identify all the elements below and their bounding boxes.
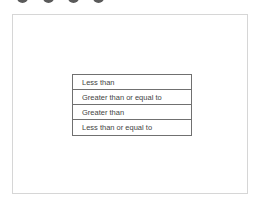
indicator-dot-1 <box>17 0 28 3</box>
indicator-dot-3 <box>68 0 79 3</box>
option-less-than[interactable]: Less than <box>73 75 191 90</box>
comparison-options-list: Less than Greater than or equal to Great… <box>72 74 192 136</box>
indicator-dot-2 <box>43 0 54 3</box>
option-greater-than-or-equal[interactable]: Greater than or equal to <box>73 90 191 105</box>
option-greater-than[interactable]: Greater than <box>73 105 191 120</box>
indicator-dot-4 <box>93 0 104 3</box>
option-less-than-or-equal[interactable]: Less than or equal to <box>73 120 191 135</box>
